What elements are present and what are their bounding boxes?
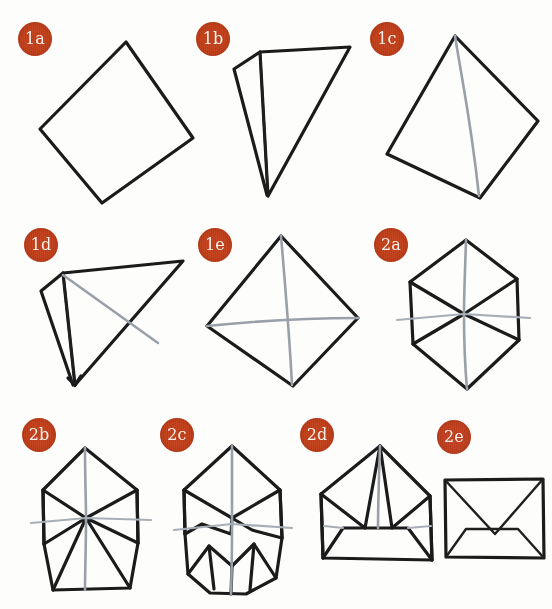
step-figure-1c: [375, 26, 550, 206]
step-figure-1e: [195, 228, 370, 393]
step-figure-2a: [388, 232, 538, 397]
step-figure-2e: [440, 474, 550, 566]
step-figure-1b: [225, 35, 360, 210]
step-figure-1a: [30, 30, 200, 210]
step-figure-2c: [168, 438, 308, 603]
step-figure-2b: [25, 440, 160, 600]
step-figure-2d: [308, 440, 438, 570]
step-figure-1d: [35, 245, 195, 395]
step-badge-2e: 2e: [437, 420, 471, 454]
instruction-sheet: 1a 1b 1c 1d 1e: [0, 0, 552, 609]
